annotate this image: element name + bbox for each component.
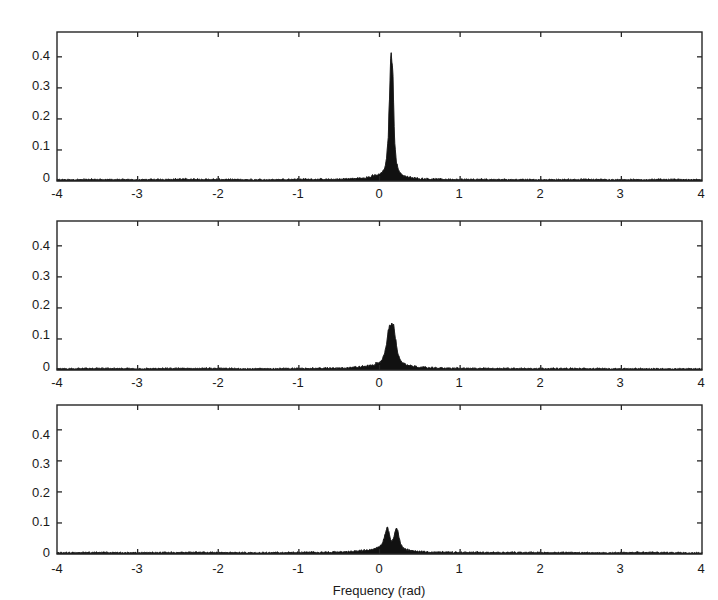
panel-middle-plot-area xyxy=(57,221,702,370)
panel-middle-spectrum-trace xyxy=(57,323,702,370)
panel-bottom-svg: 0.4 0.3 0.2 0.1 0 -4 -3 -2 -1 0 1 2 3 4 xyxy=(0,385,718,600)
panel-bottom: 0.4 0.3 0.2 0.1 0 -4 -3 -2 -1 0 1 2 3 4 xyxy=(0,385,718,600)
ytick-label: 0.1 xyxy=(32,138,50,153)
xtick-label: -3 xyxy=(131,561,143,576)
panel-middle-ticks xyxy=(57,221,702,370)
ytick-label: 0 xyxy=(43,359,50,374)
panel-middle-ylabels: 0.4 0.3 0.2 0.1 0 xyxy=(32,238,50,374)
ytick-label: 0.4 xyxy=(32,238,50,253)
ytick-label: 0.3 xyxy=(32,456,50,471)
panel-top-plot-area xyxy=(57,32,702,181)
ytick-label: 0.2 xyxy=(32,297,50,312)
ytick-label: 0.3 xyxy=(32,78,50,93)
ytick-label: 0.4 xyxy=(32,48,50,63)
spectral-figure: 0.4 0.3 0.2 0.1 0 -4 -3 -2 -1 0 1 2 3 4 xyxy=(0,0,718,600)
xtick-label: -1 xyxy=(292,561,304,576)
panel-middle-svg: 0.4 0.3 0.2 0.1 0 -4 -3 -2 -1 0 1 2 3 4 xyxy=(0,195,718,395)
ytick-label: 0.1 xyxy=(32,514,50,529)
panel-bottom-frame xyxy=(57,405,702,554)
ytick-label: 0.4 xyxy=(32,427,50,442)
panel-bottom-xlabels: -4 -3 -2 -1 0 1 2 3 4 xyxy=(51,561,704,576)
ytick-label: 0.2 xyxy=(32,485,50,500)
xtick-label: 1 xyxy=(455,561,462,576)
ytick-label: 0.1 xyxy=(32,327,50,342)
panel-top-frame xyxy=(57,32,702,181)
panel-top-baseline xyxy=(57,53,702,181)
panel-top-spectrum-trace xyxy=(57,53,702,181)
panel-top: 0.4 0.3 0.2 0.1 0 -4 -3 -2 -1 0 1 2 3 4 xyxy=(0,0,718,205)
panel-middle: 0.4 0.3 0.2 0.1 0 -4 -3 -2 -1 0 1 2 3 4 xyxy=(0,195,718,395)
panel-top-svg: 0.4 0.3 0.2 0.1 0 -4 -3 -2 -1 0 1 2 3 4 xyxy=(0,0,718,205)
xtick-label: 4 xyxy=(697,561,704,576)
x-axis-title: Frequency (rad) xyxy=(333,583,425,598)
panel-bottom-plot-area xyxy=(57,405,702,554)
panel-middle-frame xyxy=(57,221,702,370)
panel-bottom-ticks xyxy=(57,405,702,554)
ytick-label: 0.3 xyxy=(32,268,50,283)
xtick-label: 3 xyxy=(616,561,623,576)
ytick-label: 0 xyxy=(43,170,50,185)
panel-top-ylabels: 0.4 0.3 0.2 0.1 0 xyxy=(32,48,50,185)
xtick-label: 2 xyxy=(536,561,543,576)
xtick-label: -4 xyxy=(51,561,63,576)
panel-bottom-ylabels: 0.4 0.3 0.2 0.1 0 xyxy=(32,427,50,560)
ytick-label: 0.2 xyxy=(32,108,50,123)
xtick-label: 0 xyxy=(375,561,382,576)
xtick-label: -2 xyxy=(212,561,224,576)
panel-top-ticks xyxy=(57,32,702,181)
ytick-label: 0 xyxy=(43,545,50,560)
